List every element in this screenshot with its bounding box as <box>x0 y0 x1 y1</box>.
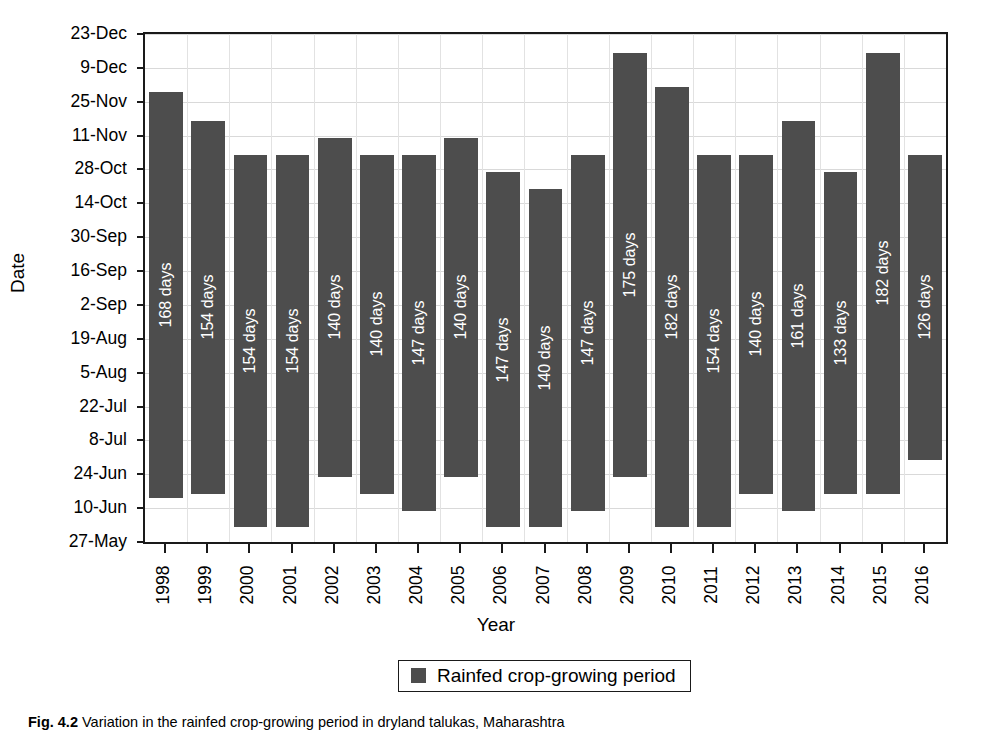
figure-caption: Fig. 4.2 Variation in the rainfed crop-g… <box>28 713 968 732</box>
y-tick-mark <box>137 372 145 374</box>
x-tick-mark <box>501 544 503 553</box>
vertical-gridline <box>820 34 821 542</box>
bar[interactable]: 133 days <box>824 172 858 494</box>
bar[interactable]: 154 days <box>234 155 268 528</box>
y-tick-label: 28-Oct <box>39 160 127 178</box>
x-tick-mark <box>923 544 925 553</box>
bar-value-label: 154 days <box>706 309 722 374</box>
bar[interactable]: 140 days <box>529 189 563 528</box>
vertical-gridline <box>398 34 399 542</box>
y-tick-label: 16-Sep <box>39 262 127 280</box>
plot-area: 168 days154 days154 days154 days140 days… <box>143 32 948 544</box>
x-tick-label: 1998 <box>151 554 177 616</box>
x-tick-label-text: 2011 <box>703 566 721 604</box>
y-tick-mark <box>137 135 145 137</box>
bar[interactable]: 154 days <box>191 121 225 494</box>
bar-value-label: 147 days <box>411 300 427 365</box>
vertical-gridline <box>440 34 441 542</box>
bar[interactable]: 140 days <box>444 138 478 477</box>
x-tick-label: 2006 <box>488 554 514 616</box>
bar-value-label: 147 days <box>495 317 511 382</box>
bar[interactable]: 182 days <box>655 87 689 527</box>
y-tick-label: 2-Sep <box>39 296 127 314</box>
y-tick-label: 24-Jun <box>39 465 127 483</box>
vertical-gridline <box>314 34 315 542</box>
y-tick-label: 27-May <box>39 533 127 551</box>
y-tick-label: 9-Dec <box>39 59 127 77</box>
x-tick-mark <box>206 544 208 553</box>
x-tick-label-text: 2013 <box>788 566 806 605</box>
y-tick-label: 30-Sep <box>39 228 127 246</box>
bar[interactable]: 182 days <box>866 53 900 493</box>
x-tick-mark <box>459 544 461 553</box>
vertical-gridline <box>609 34 610 542</box>
x-tick-label-text: 2002 <box>324 566 342 605</box>
gridline <box>145 102 946 103</box>
x-tick-mark <box>291 544 293 553</box>
x-tick-label: 2005 <box>446 554 472 616</box>
bar-value-label: 147 days <box>580 300 596 365</box>
x-tick-label: 2014 <box>826 554 852 616</box>
gridline <box>145 34 946 35</box>
bar-value-label: 154 days <box>285 309 301 374</box>
x-tick-mark <box>375 544 377 553</box>
y-tick-label: 23-Dec <box>39 25 127 43</box>
bar[interactable]: 154 days <box>697 155 731 528</box>
x-tick-mark <box>670 544 672 553</box>
bar[interactable]: 168 days <box>149 92 183 498</box>
bar[interactable]: 147 days <box>486 172 520 528</box>
y-tick-label: 25-Nov <box>39 93 127 111</box>
x-tick-label-text: 2014 <box>830 566 848 605</box>
x-tick-mark <box>544 544 546 553</box>
x-tick-label-text: 2001 <box>282 566 300 605</box>
bar[interactable]: 154 days <box>276 155 310 528</box>
y-tick-label: 19-Aug <box>39 330 127 348</box>
y-tick-mark <box>137 541 145 543</box>
x-tick-label: 2002 <box>320 554 346 616</box>
bar-value-label: 168 days <box>158 263 174 328</box>
x-tick-mark <box>333 544 335 553</box>
x-tick-label-text: 2005 <box>450 566 468 605</box>
y-tick-mark <box>137 67 145 69</box>
bar[interactable]: 175 days <box>613 53 647 476</box>
bar-value-label: 182 days <box>664 275 680 340</box>
x-tick-label-text: 2003 <box>366 566 384 605</box>
x-tick-label: 2010 <box>657 554 683 616</box>
gridline <box>145 136 946 137</box>
bar[interactable]: 140 days <box>318 138 352 477</box>
x-tick-label-text: 2007 <box>535 566 553 605</box>
bar-value-label: 140 days <box>453 275 469 340</box>
legend-swatch-icon <box>411 668 426 683</box>
y-tick-mark <box>137 507 145 509</box>
bar[interactable]: 161 days <box>782 121 816 510</box>
legend-label: Rainfed crop-growing period <box>437 666 676 685</box>
bar-value-label: 175 days <box>622 233 638 298</box>
bar[interactable]: 140 days <box>360 155 394 494</box>
x-tick-label-text: 1999 <box>197 566 215 605</box>
vertical-gridline <box>567 34 568 542</box>
bar[interactable]: 126 days <box>908 155 942 460</box>
x-tick-label: 2012 <box>741 554 767 616</box>
bar-value-label: 126 days <box>917 275 933 340</box>
x-tick-label: 2007 <box>531 554 557 616</box>
bar[interactable]: 147 days <box>402 155 436 511</box>
y-tick-mark <box>137 406 145 408</box>
bar-value-label: 154 days <box>200 275 216 340</box>
vertical-gridline <box>187 34 188 542</box>
bar[interactable]: 140 days <box>739 155 773 494</box>
x-tick-label-text: 2008 <box>577 566 595 605</box>
y-tick-label: 8-Jul <box>39 431 127 449</box>
vertical-gridline <box>356 34 357 542</box>
y-tick-label: 10-Jun <box>39 499 127 517</box>
x-tick-label-text: 2000 <box>240 566 258 605</box>
caption-text: Variation in the rainfed crop-growing pe… <box>82 714 565 730</box>
y-tick-mark <box>137 304 145 306</box>
y-tick-mark <box>137 101 145 103</box>
x-tick-label-text: 2010 <box>661 566 679 605</box>
x-tick-label: 2009 <box>615 554 641 616</box>
x-tick-mark <box>754 544 756 553</box>
x-tick-label: 2011 <box>699 554 725 616</box>
x-axis-title: Year <box>0 614 992 636</box>
vertical-gridline <box>693 34 694 542</box>
bar[interactable]: 147 days <box>571 155 605 511</box>
